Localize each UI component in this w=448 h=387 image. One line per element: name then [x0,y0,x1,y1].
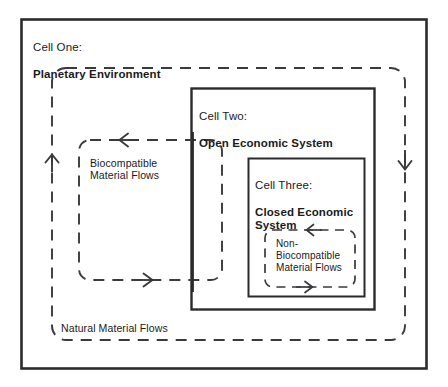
cell-one-name: Planetary Environment [33,68,161,82]
diagram-canvas: Cell One: Planetary Environment Cell Two… [0,0,448,387]
cell-three-prefix: Cell Three: [255,179,365,193]
non-biocompatible-flows-label: Non- Biocompatible Material Flows [276,238,356,275]
cell-one-label: Cell One: Planetary Environment [33,27,161,95]
biocompatible-flows-label: Biocompatible Material Flows [90,157,190,182]
arrow-left-icon-biocompatible [120,134,140,147]
cell-two-label: Cell Two: Open Economic System [199,96,333,164]
cell-one-prefix: Cell One: [33,41,161,55]
cell-two-prefix: Cell Two: [199,110,333,124]
arrow-down-icon-natural [399,150,412,170]
cell-three-label: Cell Three: Closed Economic System [255,165,365,246]
cell-three-name: Closed Economic System [255,206,365,233]
arrow-right-icon-biocompatible [133,274,153,287]
arrow-up-icon-natural [46,155,59,173]
arrow-right-icon-non-biocompatible [296,282,313,293]
cell-two-name: Open Economic System [199,137,333,151]
natural-flows-label: Natural Material Flows [61,322,168,334]
